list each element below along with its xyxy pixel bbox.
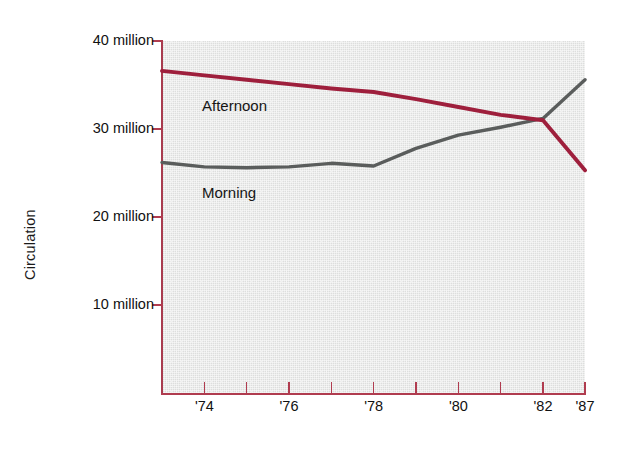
x-tick-label: '74	[195, 398, 214, 414]
series-label-afternoon: Afternoon	[202, 97, 267, 114]
x-tick-mark	[373, 382, 375, 393]
y-tick-label-wrap: 40 million	[58, 32, 154, 33]
x-tick-mark	[204, 382, 206, 393]
y-tick-label: 30 million	[58, 120, 154, 136]
y-tick-label-wrap: 20 million	[58, 208, 154, 209]
y-axis-title: Circulation	[22, 150, 42, 280]
y-tick-label-wrap: 10 million	[58, 296, 154, 297]
y-tick-label: 20 million	[58, 208, 154, 224]
series-label-morning: Morning	[202, 184, 256, 201]
x-tick-mark	[584, 382, 586, 393]
x-tick-mark	[458, 382, 460, 393]
x-tick-mark	[288, 382, 290, 393]
x-tick-mark	[331, 382, 333, 393]
y-tick-label: 40 million	[58, 32, 154, 48]
x-tick-mark	[246, 382, 248, 393]
x-tick-mark	[542, 382, 544, 393]
x-tick-label: '80	[449, 398, 468, 414]
x-tick-label: '78	[364, 398, 383, 414]
x-tick-label: '76	[280, 398, 299, 414]
x-tick-label: '82	[534, 398, 553, 414]
x-tick-mark	[500, 382, 502, 393]
plot-area	[162, 41, 585, 393]
y-tick-label-wrap: 30 million	[58, 120, 154, 121]
x-tick-label: '87	[576, 398, 595, 414]
x-axis-line	[161, 393, 586, 395]
x-tick-mark	[415, 382, 417, 393]
y-tick-label: 10 million	[58, 296, 154, 312]
circulation-line-chart: Circulation 40 million30 million20 milli…	[0, 0, 618, 450]
